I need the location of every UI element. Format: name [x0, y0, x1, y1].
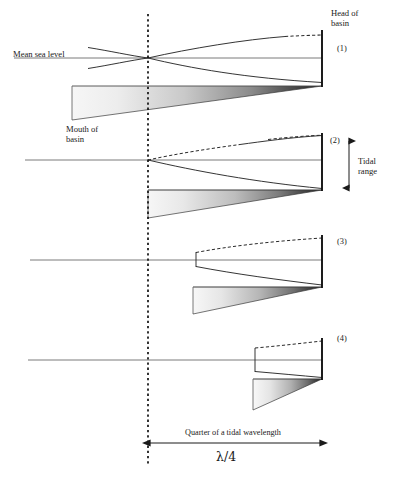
panel-1-low-water-left-segment [88, 58, 148, 69]
panel-4-group [28, 338, 322, 410]
panel-1-number-label: (1) [337, 44, 347, 54]
panel-2-low-water-curve [148, 160, 322, 189]
panel-1-low-water-curve [148, 58, 322, 83]
tidal-basin-diagram: Mean sea level Head of basin Mouth of ba… [0, 0, 403, 484]
panel-2-high-water-curve [240, 136, 322, 145]
panel-2-group [25, 133, 349, 218]
quarter-wavelength-label: Quarter of a tidal wavelength [185, 428, 281, 438]
panel-3-number-label: (3) [337, 237, 347, 247]
panel-2-number-label: (2) [330, 136, 340, 146]
panel-4-low-water-curve [255, 372, 322, 378]
mean-sea-level-label: Mean sea level [13, 49, 65, 59]
panel-4-high-water-dashed [255, 341, 322, 348]
panel-1-high-water-dashed-tip [285, 35, 322, 37]
panel-1-high-water-left-segment [88, 48, 148, 59]
panel-3-low-water-curve [196, 267, 322, 286]
head-of-basin-label: Head of basin [331, 8, 358, 28]
panel-3-group [30, 235, 322, 314]
panel-2-high-water-dashed-segment [148, 145, 240, 161]
panel-1-high-water-curve [148, 37, 285, 59]
panel-4-number-label: (4) [337, 334, 347, 344]
panel-1-group [14, 30, 322, 120]
lambda-quarter-label: λ/4 [216, 450, 236, 465]
mouth-of-basin-label: Mouth of basin [66, 124, 98, 144]
tidal-range-label: Tidal range [358, 156, 377, 176]
panel-3-high-water-dashed [196, 238, 322, 253]
